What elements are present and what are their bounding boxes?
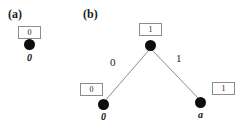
panel-b-left-leaf-label: 0 [93,112,114,122]
panel-b-right-leaf-node [195,97,206,108]
figure-canvas: (a) 0 0 (b) 1 0 1 0 0 1 a [0,0,246,126]
panel-b-right-leaf-box: 1 [212,82,235,95]
tree-edges [0,0,246,126]
panel-b-left-leaf-node [98,99,109,110]
panel-b-right-edge-label: 1 [176,53,182,64]
panel-b-left-edge-label: 0 [110,57,116,68]
panel-b-root-box: 1 [139,23,162,36]
panel-b-root-node [145,40,156,51]
panel-b-left-leaf-box: 0 [80,83,103,96]
panel-b-right-leaf-label: a [190,110,211,120]
